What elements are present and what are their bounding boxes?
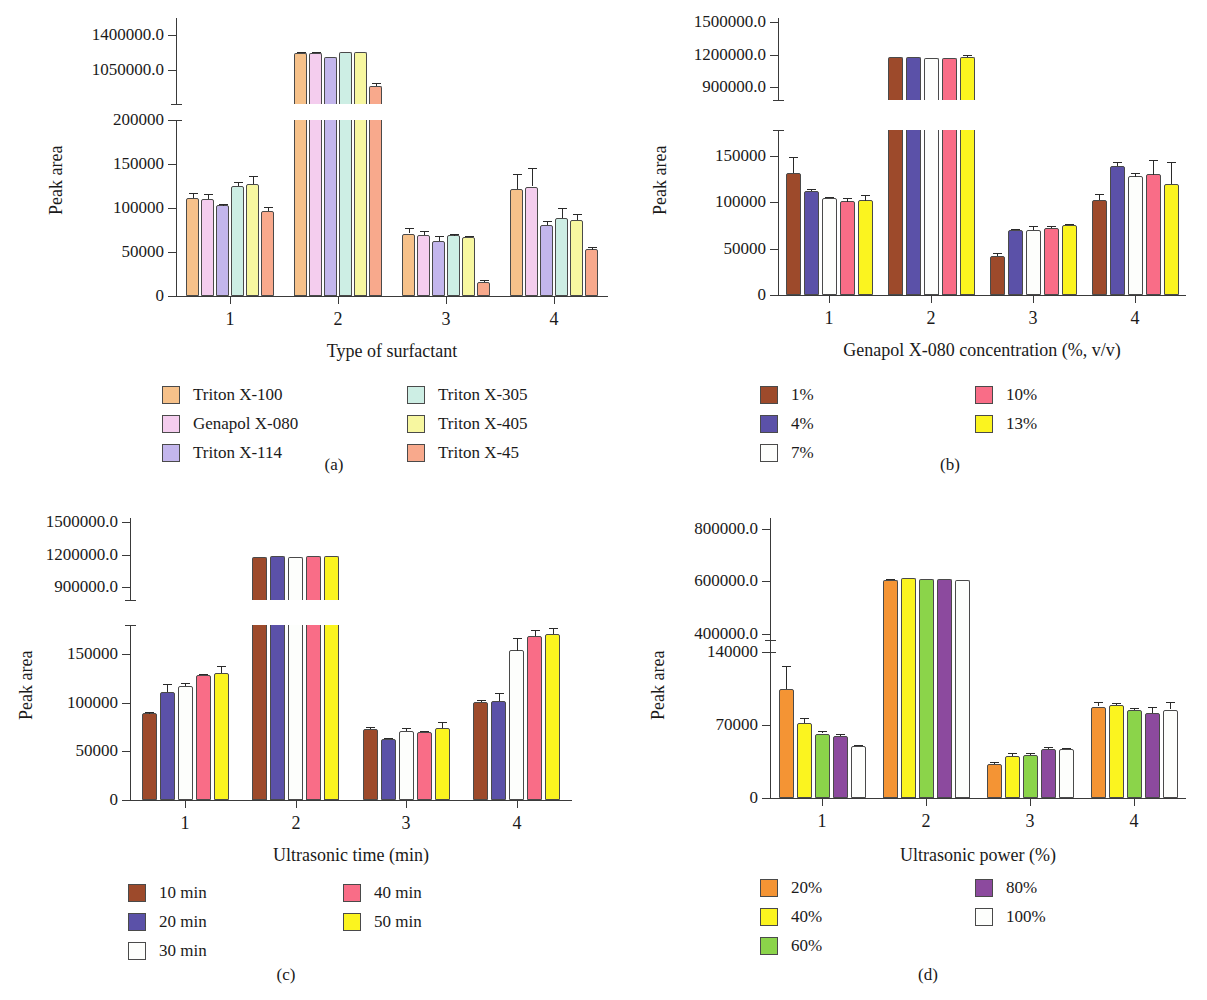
bar <box>1005 756 1020 798</box>
error-bar <box>786 666 787 689</box>
legend-swatch-icon <box>760 879 778 897</box>
y-ticklabel-lower: 0 <box>638 789 758 806</box>
y-ticklabel-upper: 600000.0 <box>638 572 758 589</box>
legend-swatch-icon <box>760 908 778 926</box>
bar <box>1145 713 1160 798</box>
bar <box>815 734 830 798</box>
error-bar-cap <box>1112 703 1121 704</box>
y-axis-label: Peak area <box>648 651 669 720</box>
error-bar-cap <box>1008 753 1017 754</box>
legend-swatch-icon <box>975 908 993 926</box>
bar <box>797 723 812 798</box>
bar-upper-segment <box>901 578 916 652</box>
error-bar-cap <box>1044 747 1053 748</box>
x-tick <box>822 799 823 806</box>
bar-lower-segment <box>901 640 916 798</box>
y-tick-lower <box>762 652 770 653</box>
bar-lower-segment <box>919 640 934 798</box>
x-tick <box>926 799 927 806</box>
y-tick-lower <box>762 798 770 799</box>
legend-swatch-icon <box>760 937 778 955</box>
error-bar-cap <box>1148 707 1157 708</box>
x-tick <box>1030 799 1031 806</box>
bar-lower-segment <box>955 640 970 798</box>
error-bar-cap <box>886 579 895 580</box>
bar <box>1041 749 1056 798</box>
error-bar-cap <box>990 762 999 763</box>
error-bar <box>1170 702 1171 709</box>
x-ticklabel: 1 <box>792 812 852 830</box>
chart-panel-d: 070000140000400000.0600000.0800000.01234… <box>0 0 1207 1000</box>
bar-upper-segment <box>919 579 934 652</box>
error-bar-cap <box>818 731 827 732</box>
error-bar-cap <box>800 718 809 719</box>
bar <box>1023 755 1038 798</box>
bar <box>1127 710 1142 798</box>
error-bar-cap <box>1130 708 1139 709</box>
legend-label: 80% <box>1006 879 1037 897</box>
panel-letter: (d) <box>898 965 958 985</box>
error-bar-cap <box>1094 702 1103 703</box>
bar <box>987 764 1002 798</box>
bar <box>779 689 794 798</box>
legend-swatch-icon <box>975 879 993 897</box>
error-bar-cap <box>1062 748 1071 749</box>
y-tick-lower <box>762 725 770 726</box>
bar-upper-segment <box>883 580 898 652</box>
error-bar-cap <box>1166 702 1175 703</box>
bar <box>1109 705 1124 798</box>
error-bar-cap <box>836 734 845 735</box>
bar <box>1091 707 1106 798</box>
x-axis-label: Ultrasonic power (%) <box>680 845 1207 865</box>
y-tick-upper <box>762 529 770 530</box>
bar <box>1163 710 1178 798</box>
y-axis-upper <box>770 518 771 653</box>
x-ticklabel: 3 <box>1000 812 1060 830</box>
bar-upper-segment <box>937 579 952 652</box>
bar <box>851 746 866 798</box>
legend-label: 100% <box>1006 908 1046 926</box>
error-bar-cap <box>1026 753 1035 754</box>
y-tick-upper <box>762 581 770 582</box>
bar <box>1059 749 1074 798</box>
legend-label: 20% <box>791 879 822 897</box>
x-tick <box>1134 799 1135 806</box>
y-axis-lower <box>770 640 771 799</box>
legend-label: 40% <box>791 908 822 926</box>
legend-item[interactable]: 40% <box>760 904 822 930</box>
x-ticklabel: 4 <box>1104 812 1164 830</box>
legend-item[interactable]: 80% <box>975 875 1046 901</box>
legend-item[interactable]: 100% <box>975 904 1046 930</box>
legend-item[interactable]: 60% <box>760 933 822 959</box>
x-axis <box>770 798 1186 799</box>
legend-column: 80%100% <box>975 875 1046 933</box>
legend-item[interactable]: 20% <box>760 875 822 901</box>
axis-break-cap-lower <box>765 640 776 641</box>
bar <box>833 736 848 798</box>
figure-root: 0500001000001500002000001050000.01400000… <box>0 0 1207 1000</box>
legend-column: 20%40%60% <box>760 875 822 962</box>
error-bar-cap <box>854 745 863 746</box>
error-bar-cap <box>782 666 791 667</box>
y-ticklabel-upper: 400000.0 <box>638 625 758 642</box>
bar-lower-segment <box>883 640 898 798</box>
legend-label: 60% <box>791 937 822 955</box>
bar-lower-segment <box>937 640 952 798</box>
bar-upper-segment <box>955 580 970 652</box>
x-ticklabel: 2 <box>896 812 956 830</box>
y-ticklabel-upper: 800000.0 <box>638 520 758 537</box>
y-tick-upper <box>762 634 770 635</box>
